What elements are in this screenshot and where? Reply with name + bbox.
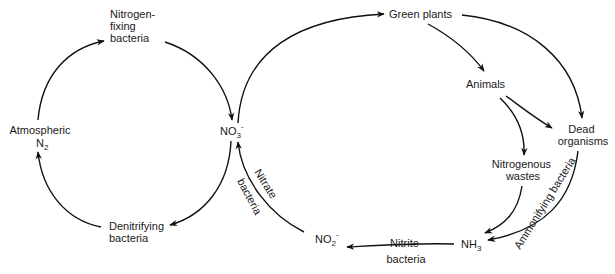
arrow-denitrifying-to-n2 [38,152,101,227]
label-nitrite-bacteria: Nitrite bacteria [386,237,426,265]
node-nitrogenous-wastes: Nitrogenous wastes [492,158,554,182]
nitrogen-cycle-diagram: Nitrogen- fixing bacteria Atmospheric N2… [0,0,615,274]
arrow-green-plants-to-animals [428,24,484,71]
arrow-nitrate-to-denitrifying [170,141,231,225]
node-dead-organisms: Dead organisms [558,123,609,147]
node-ammonia-nh3: NH3 [461,238,482,253]
node-green-plants: Green plants [389,8,452,20]
node-animals: Animals [466,78,506,90]
arrow-n2-to-fixing [38,41,104,120]
node-atmospheric-n2-formula: N2 [36,137,49,152]
arrow-wastes-to-ammonia [485,186,522,233]
arrow-nitrate-to-green-plants [238,14,384,123]
node-nitrite-no2: NO2- [315,230,339,248]
node-atmospheric-n2: Atmospheric [9,124,71,136]
arrow-fixing-to-nitrate [165,42,232,120]
node-nitrogen-fixing-bacteria: Nitrogen- fixing bacteria [110,8,158,44]
node-nitrate-no3: NO3- [220,122,244,140]
node-denitrifying-bacteria: Denitrifying bacteria [109,220,167,244]
